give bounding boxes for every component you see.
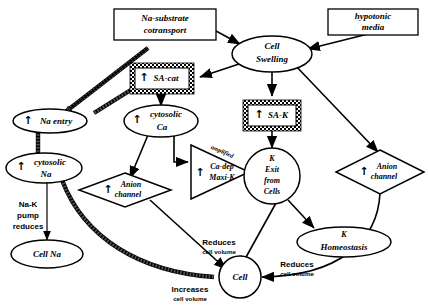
edge-cotransport-to-cell-swelling [216, 31, 240, 44]
na-substrate-cotransport-label-line2: cotransport [144, 25, 187, 35]
reduces-right-line2: cell volume [280, 270, 314, 277]
hypotonic-media-label-line1: hypotonic [355, 11, 392, 21]
anion-channel-left-label-line2: channel [115, 190, 142, 199]
reduces-right-line1: Reduces [280, 260, 314, 269]
reduces-center-line2: cell volume [202, 248, 236, 255]
node-anion-channel-left[interactable]: ↑ Anion channel [79, 173, 171, 207]
node-cell-swelling[interactable]: Cell Swelling [232, 36, 312, 72]
node-na-entry[interactable]: ↑ Na entry [13, 109, 87, 133]
edge-anion-left-to-cell [150, 200, 226, 269]
cytosolic-ca-up-arrow: ↑ [132, 113, 141, 126]
edge-cytosolic-ca-to-maxik [174, 136, 188, 162]
sa-k-label: SA-K [268, 110, 289, 120]
edge-sacat-to-na-entry [94, 88, 134, 113]
anion-channel-right-up-arrow: ↑ [359, 165, 368, 178]
edge-k-exit-to-k-homeostasis [288, 200, 314, 228]
node-k-homeostasis[interactable]: K Homeostasis [297, 227, 391, 257]
reduces-center-line1: Reduces [202, 238, 236, 247]
node-na-substrate-cotransport[interactable]: Na-substrate cotransport [114, 9, 216, 40]
label-increases-cell-volume: Increases cell volume [172, 285, 209, 302]
cytosolic-ca-label-line2: Ca [157, 122, 168, 132]
sa-cat-label: SA-cat [153, 73, 179, 83]
na-k-pump-reduces-line3: reduces [13, 222, 44, 231]
na-substrate-cotransport-label-line1: Na-substrate [140, 13, 189, 23]
k-exit-label-line3: from [264, 176, 280, 185]
k-exit-label-line1: K [268, 154, 275, 163]
sa-cat-up-arrow: ↑ [139, 71, 148, 84]
node-hypotonic-media[interactable]: hypotonic media [328, 9, 418, 35]
cytosolic-na-up-arrow: ↑ [16, 160, 25, 173]
diagram-root: Na-substrate cotransport hypotonic media… [0, 0, 428, 308]
ca-dep-maxi-k-label-line1: Ca-dep [210, 162, 234, 171]
na-k-pump-reduces-line2: pump [17, 211, 39, 220]
node-cytosolic-ca[interactable]: ↑ cytosolic Ca [124, 105, 198, 137]
hypotonic-media-label-line2: media [362, 22, 385, 32]
edge-cell-swelling-to-anion-right [293, 63, 378, 152]
k-homeostasis-label-line2: Homeostasis [319, 242, 368, 252]
edge-cytosolic-ca-to-anion-left [130, 135, 148, 178]
cytosolic-na-label-line1: cytosolic [34, 157, 66, 167]
edge-hypotonic-to-cell-swelling [308, 34, 368, 49]
ca-dep-maxi-k-up-arrow: ↑ [195, 166, 204, 179]
node-cell[interactable]: Cell [219, 256, 261, 298]
k-homeostasis-label-line1: K [340, 230, 347, 239]
increases-line2: cell volume [173, 295, 207, 302]
node-anion-channel-right[interactable]: ↑ Anion channel [336, 150, 424, 194]
anion-channel-left-up-arrow: ↑ [103, 183, 112, 196]
node-sa-cat[interactable]: ↑ SA-cat [130, 63, 194, 94]
node-cell-na[interactable]: Cell Na [11, 240, 83, 268]
k-exit-label-line2: Exit [264, 165, 280, 174]
label-reduces-cell-volume-right: Reduces cell volume [280, 260, 314, 277]
label-na-k-pump-reduces: Na-K pump reduces [13, 200, 44, 231]
ca-dep-maxi-k-label-line2: Maxi-K [208, 173, 235, 182]
cytosolic-na-label-line2: Na [40, 169, 52, 179]
cell-swelling-label-line1: Cell [265, 41, 280, 51]
k-exit-label-line4: Cells [264, 187, 280, 196]
cell-swelling-label-line2: Swelling [256, 54, 289, 64]
node-cytosolic-na[interactable]: ↑ cytosolic Na [6, 153, 82, 183]
node-sa-k[interactable]: ↑ SA-K [243, 100, 301, 131]
cell-na-label: Cell Na [33, 249, 62, 259]
cytosolic-ca-label-line1: cytosolic [150, 109, 182, 119]
node-ca-dep-maxi-k[interactable]: ↑ Ca-dep Maxi-K amplified [191, 143, 249, 199]
na-entry-label: Na entry [39, 116, 73, 126]
na-entry-up-arrow: ↑ [23, 114, 32, 127]
anion-channel-right-label-line1: Anion [376, 162, 398, 171]
anion-channel-left-label-line1: Anion [120, 180, 142, 189]
anion-channel-right-label-line2: channel [371, 172, 398, 181]
na-k-pump-reduces-line1: Na-K [19, 200, 38, 209]
diagram-canvas: Na-substrate cotransport hypotonic media… [0, 0, 428, 308]
label-reduces-cell-volume-center: Reduces cell volume [202, 238, 236, 255]
cell-label: Cell [233, 272, 248, 282]
increases-line1: Increases [172, 285, 209, 294]
sa-k-up-arrow: ↑ [254, 108, 263, 121]
node-k-exit-from-cells[interactable]: K Exit from Cells [244, 148, 300, 204]
